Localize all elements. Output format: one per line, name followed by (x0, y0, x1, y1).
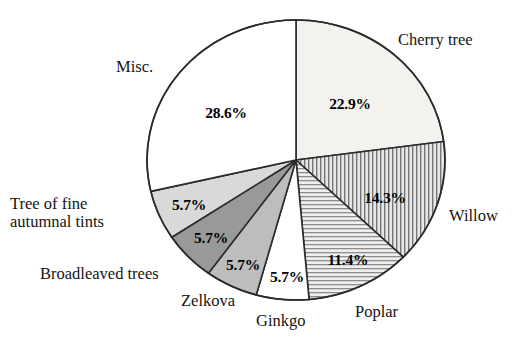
pie-slice-group (147, 20, 445, 300)
category-label-cherry-tree: Cherry tree (398, 31, 473, 49)
pie-chart-figure: 22.9% 14.3% 11.4% 5.7% 5.7% 5.7% 5.7% 28… (0, 0, 515, 344)
percent-label-poplar: 11.4% (328, 251, 369, 269)
tree-of-fine-autumnal-tints-line-1: Tree of fine (10, 194, 87, 213)
category-label-tree-of-fine-autumnal-tints: Tree of fine autumnal tints (10, 195, 104, 232)
percent-label-tree-of-fine-autumnal-tints: 5.7% (172, 196, 206, 214)
category-label-misc: Misc. (116, 58, 153, 76)
category-label-zelkova: Zelkova (181, 292, 235, 310)
category-label-willow: Willow (449, 207, 498, 225)
category-label-broadleaved-trees: Broadleaved trees (40, 265, 159, 283)
percent-label-ginkgo: 5.7% (270, 268, 304, 286)
category-label-poplar: Poplar (355, 303, 398, 321)
percent-label-zelkova: 5.7% (226, 256, 260, 274)
percent-label-willow: 14.3% (364, 189, 406, 207)
pie-chart-canvas (0, 0, 515, 344)
percent-label-broadleaved-trees: 5.7% (194, 229, 228, 247)
category-label-ginkgo: Ginkgo (256, 312, 306, 330)
tree-of-fine-autumnal-tints-line-2: autumnal tints (10, 212, 104, 231)
percent-label-cherry-tree: 22.9% (329, 95, 371, 113)
percent-label-misc: 28.6% (205, 104, 247, 122)
